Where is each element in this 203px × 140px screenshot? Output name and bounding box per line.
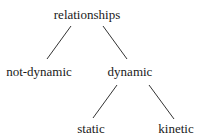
node-kinetic: kinetic [158, 122, 193, 136]
node-not-dynamic: not-dynamic [6, 65, 72, 79]
node-dynamic: dynamic [108, 65, 153, 79]
node-static: static [77, 122, 104, 136]
edge-dynamic-kinetic [149, 85, 174, 119]
edge-relationships-not-dynamic [47, 26, 71, 59]
edge-relationships-dynamic [103, 26, 127, 59]
node-relationships: relationships [54, 8, 120, 22]
edge-dynamic-static [93, 85, 117, 118]
